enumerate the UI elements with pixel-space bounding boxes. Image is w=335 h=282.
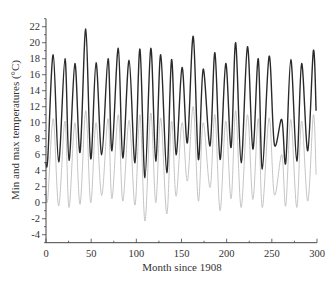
- y-tick-label: 18: [30, 53, 41, 64]
- max-temperature-line: [46, 29, 316, 178]
- y-tick-label: 4: [35, 165, 41, 176]
- y-tick-label: 14: [30, 85, 41, 96]
- x-tick-label: 100: [128, 248, 144, 259]
- y-tick-label: -2: [31, 213, 40, 224]
- x-tick-label: 150: [174, 248, 190, 259]
- x-tick-label: 200: [219, 248, 235, 259]
- y-tick-label: 10: [30, 117, 41, 128]
- y-ticks: -4-20246810121416182022: [30, 19, 47, 243]
- x-tick-label: 0: [43, 248, 48, 259]
- y-tick-label: 2: [35, 181, 40, 192]
- y-tick-label: -4: [31, 229, 40, 240]
- plot-series: [46, 29, 316, 221]
- x-tick-label: 50: [86, 248, 97, 259]
- temperature-chart: -4-20246810121416182022 0501001502002503…: [0, 0, 335, 282]
- x-tick-label: 250: [264, 248, 280, 259]
- y-tick-label: 8: [35, 133, 40, 144]
- y-axis-label: Min and max temperatures (°C): [9, 60, 22, 200]
- min-temperature-line: [46, 107, 316, 222]
- x-axis-label: Month since 1908: [142, 261, 222, 273]
- y-tick-label: 12: [30, 101, 41, 112]
- y-tick-label: 16: [30, 69, 41, 80]
- x-tick-label: 300: [309, 248, 325, 259]
- y-tick-label: 0: [35, 197, 40, 208]
- y-tick-label: 20: [30, 37, 41, 48]
- y-tick-label: 6: [35, 149, 40, 160]
- y-tick-label: 22: [30, 21, 41, 32]
- x-ticks: 050100150200250300: [43, 239, 325, 259]
